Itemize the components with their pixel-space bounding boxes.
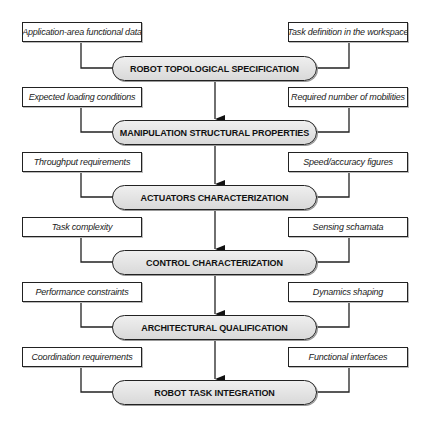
right-input-box: Speed/accuracy figures (288, 152, 408, 172)
stage-pill: CONTROL CHARACTERIZATION (112, 250, 317, 275)
right-input-box: Task definition in the workspace (288, 22, 408, 42)
right-input-box: Sensing schamata (288, 217, 408, 237)
left-input-box: Throughput requirements (22, 152, 142, 172)
left-input-box: Task complexity (22, 217, 142, 237)
right-input-box: Dynamics shaping (288, 282, 408, 302)
right-input-box: Required number of mobilities (288, 87, 408, 107)
right-input-box: Functional interfaces (288, 347, 408, 367)
stage-pill: ROBOT TASK INTEGRATION (112, 380, 317, 405)
left-input-box: Application-area functional data (22, 22, 142, 42)
left-input-box: Expected loading conditions (22, 87, 142, 107)
left-input-box: Performance constraints (22, 282, 142, 302)
left-input-box: Coordination requirements (22, 347, 142, 367)
stage-pill: ARCHITECTURAL QUALIFICATION (112, 315, 317, 340)
design-flow-diagram: Application-area functional data Task de… (0, 0, 430, 426)
stage-pill: ROBOT TOPOLOGICAL SPECIFICATION (112, 56, 317, 81)
stage-pill: MANIPULATION STRUCTURAL PROPERTIES (112, 120, 317, 145)
stage-pill: ACTUATORS CHARACTERIZATION (112, 185, 317, 210)
